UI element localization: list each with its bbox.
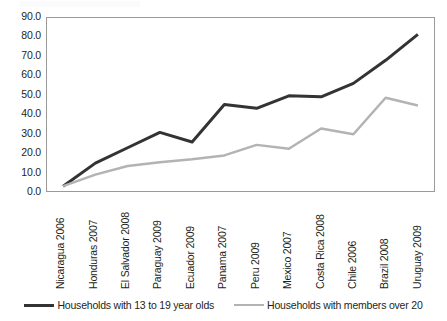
x-tick-label: Brazil 2008 [379,239,390,289]
line-chart: 0.010.020.030.040.050.060.070.080.090.0 … [0,0,447,321]
legend-item-dark: Households with 13 to 19 year olds [24,299,214,311]
y-tick-label: 80.0 [21,30,41,41]
y-axis: 0.010.020.030.040.050.060.070.080.090.0 [0,12,44,197]
y-tick-label: 40.0 [21,108,41,119]
x-tick-label: Nicaragua 2006 [55,218,66,289]
x-tick-label: Ecuador 2009 [185,226,196,289]
top-edge-artifact [20,1,140,7]
y-tick-label: 60.0 [21,69,41,80]
series-line-light [63,98,418,186]
y-tick-label: 30.0 [21,128,41,139]
plot-area [46,17,435,192]
x-tick-label: Uruguay 2009 [412,225,423,289]
y-tick-label: 10.0 [21,167,41,178]
x-tick-label: El Salvador 2008 [120,212,131,289]
chart-legend: Households with 13 to 19 year olds House… [0,293,447,317]
legend-swatch-dark [24,304,54,307]
x-tick-label: Chile 2006 [347,241,358,289]
x-tick-label: Honduras 2007 [88,220,99,289]
x-tick-label: Paraguay 2009 [152,220,163,289]
x-tick-label: Panama 2007 [217,226,228,289]
x-tick-label: Peru 2009 [250,242,261,289]
y-tick-label: 70.0 [21,50,41,61]
legend-label-light: Households with members over 20 [267,299,422,311]
x-tick-label: Costa Rica 2008 [315,214,326,289]
x-tick-label: Mexico 2007 [282,232,293,289]
legend-label-dark: Households with 13 to 19 year olds [57,299,214,311]
series-canvas [47,18,434,191]
y-tick-label: 50.0 [21,89,41,100]
y-tick-label: 90.0 [21,11,41,22]
x-axis: Nicaragua 2006Honduras 2007El Salvador 2… [46,193,435,289]
legend-item-light: Households with members over 20 [234,299,422,311]
series-line-dark [63,34,418,186]
y-tick-label: 20.0 [21,147,41,158]
legend-swatch-light [234,304,264,306]
y-tick-label: 0.0 [27,186,41,197]
